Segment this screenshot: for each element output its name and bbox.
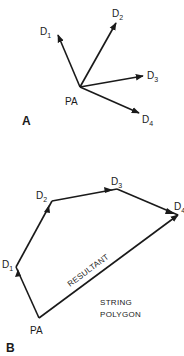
vertex-label-d2: D2 xyxy=(36,190,47,203)
caption-polygon: POLYGON xyxy=(100,310,141,319)
panel-label-a: A xyxy=(22,114,31,128)
label-d1: D1 xyxy=(40,26,51,39)
panel-label-b: B xyxy=(6,341,15,355)
vector-d4 xyxy=(80,87,139,113)
vertex-label-d3: D3 xyxy=(111,176,122,189)
label-d3: D3 xyxy=(147,70,158,83)
vector-d1 xyxy=(58,35,80,87)
label-d2: D2 xyxy=(112,8,123,21)
panel-b: D1 D2 D3 D4 PA RESULTANT STRING POLYGON … xyxy=(0,0,184,355)
vector-diagram: D1 D2 D3 D4 PA A D1 D2 D3 D4 PA RESULTAN… xyxy=(0,0,184,356)
arrowhead-d2 xyxy=(44,205,50,213)
panel-a: D1 D2 D3 D4 PA A xyxy=(22,8,158,128)
vector-d2 xyxy=(80,23,116,87)
arrowhead-d3 xyxy=(104,187,113,193)
caption-string: STRING xyxy=(100,298,132,307)
arrowhead-d1 xyxy=(15,269,21,277)
origin-label-pa: PA xyxy=(65,96,78,107)
vector-d3 xyxy=(80,76,143,87)
vertex-label-d4: D4 xyxy=(174,201,184,214)
vertex-label-d1: D1 xyxy=(2,259,13,272)
origin-label-pa: PA xyxy=(30,325,43,336)
label-d4: D4 xyxy=(142,114,153,127)
